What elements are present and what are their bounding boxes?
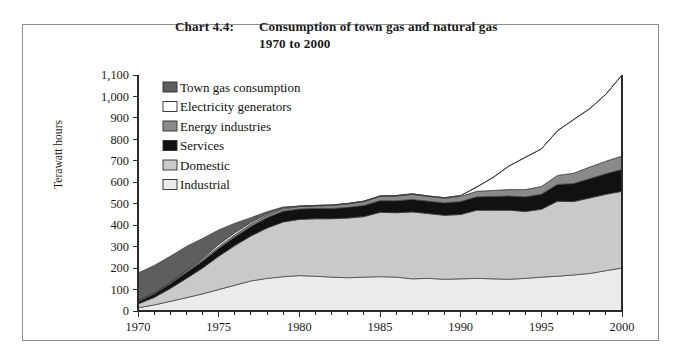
x-tick-label: 1980 [287, 320, 312, 334]
y-tick-label: 700 [110, 154, 129, 168]
y-tick-label: 1,100 [101, 68, 129, 82]
y-tick-label: 400 [110, 218, 129, 232]
chart-figure: Chart 4.4: Consumption of town gas and n… [0, 0, 681, 362]
y-tick-label: 300 [110, 240, 129, 254]
legend-swatch-domestic [163, 160, 177, 170]
legend-label: Energy industries [180, 119, 271, 134]
x-tick-label: 1985 [368, 320, 393, 334]
legend-swatch-electricity-generators [163, 102, 177, 112]
chart-legend: Town gas consumptionElectricity generato… [163, 80, 301, 193]
legend-label: Electricity generators [180, 99, 292, 114]
x-tick-label: 1995 [529, 320, 554, 334]
y-tick-label: 100 [110, 283, 129, 297]
x-tick-labels: 1970197519801985199019952000 [126, 311, 635, 334]
y-tick-label: 600 [110, 175, 129, 189]
x-tick-label: 1975 [206, 320, 231, 334]
x-tick-label: 2000 [610, 320, 635, 334]
legend-label: Industrial [180, 177, 230, 192]
legend-swatch-services [163, 141, 177, 151]
legend-label: Town gas consumption [180, 80, 301, 95]
x-tick-label: 1970 [126, 320, 151, 334]
y-tick-label: 0 [123, 304, 129, 318]
x-tick-label: 1990 [448, 320, 473, 334]
y-tick-label: 800 [110, 133, 129, 147]
legend-swatch-industrial [163, 180, 177, 190]
y-tick-label: 200 [110, 261, 129, 275]
y-tick-label: 900 [110, 111, 129, 125]
stacked-area-plot: 01002003004005006007008009001,0001,100 1… [0, 0, 681, 362]
legend-label: Domestic [180, 158, 230, 173]
legend-swatch-town-gas-consumption [163, 82, 177, 92]
y-tick-label: 1,000 [101, 90, 129, 104]
y-tick-label: 500 [110, 197, 129, 211]
legend-swatch-energy-industries [163, 121, 177, 131]
legend-label: Services [180, 138, 224, 153]
y-tick-labels: 01002003004005006007008009001,0001,100 [101, 68, 138, 318]
